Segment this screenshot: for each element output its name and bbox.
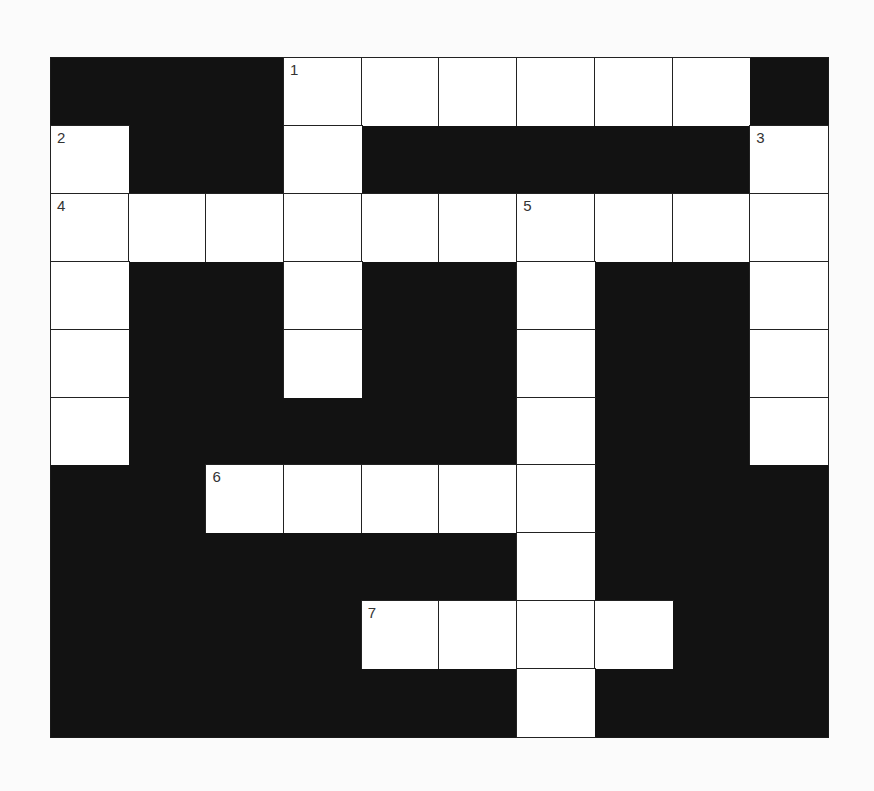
black-square [750,58,828,126]
black-square [129,330,207,398]
crossword-cell[interactable] [517,533,595,601]
black-square [284,601,362,669]
black-square [439,533,517,601]
crossword-cell[interactable] [517,330,595,398]
black-square [750,465,828,533]
black-square [362,669,440,737]
black-square [673,669,751,737]
crossword-cell[interactable]: 5 [517,194,595,262]
crossword-cell[interactable] [673,194,751,262]
crossword-cell[interactable] [362,194,440,262]
black-square [284,533,362,601]
black-square [284,398,362,466]
black-square [129,533,207,601]
crossword-cell[interactable] [750,330,828,398]
black-square [750,601,828,669]
black-square [673,398,751,466]
crossword-cell[interactable] [517,398,595,466]
crossword-cell[interactable]: 3 [750,126,828,194]
black-square [129,126,207,194]
black-square [51,669,129,737]
crossword-cell[interactable] [439,601,517,669]
black-square [673,262,751,330]
crossword-cell[interactable] [284,330,362,398]
crossword-cell[interactable] [439,194,517,262]
crossword-cell[interactable] [51,262,129,330]
crossword-cell[interactable] [517,465,595,533]
black-square [206,601,284,669]
crossword-cell[interactable]: 1 [284,58,362,126]
black-square [595,669,673,737]
crossword-cell[interactable] [517,262,595,330]
black-square [595,533,673,601]
black-square [595,262,673,330]
crossword-cell[interactable] [750,398,828,466]
crossword-cell[interactable] [284,126,362,194]
black-square [439,669,517,737]
black-square [673,126,751,194]
black-square [673,330,751,398]
black-square [439,126,517,194]
black-square [750,533,828,601]
crossword-cell[interactable] [750,194,828,262]
black-square [206,330,284,398]
black-square [517,126,595,194]
clue-number: 2 [57,130,65,145]
black-square [595,398,673,466]
black-square [206,533,284,601]
crossword-cell[interactable] [673,58,751,126]
black-square [206,126,284,194]
crossword-cell[interactable] [284,465,362,533]
crossword-cell[interactable] [362,58,440,126]
crossword-cell[interactable] [362,465,440,533]
black-square [129,601,207,669]
black-square [362,533,440,601]
crossword-cell[interactable] [595,58,673,126]
crossword-cell[interactable] [517,58,595,126]
black-square [439,262,517,330]
crossword-cell[interactable] [284,262,362,330]
black-square [206,669,284,737]
black-square [362,330,440,398]
crossword-cell[interactable] [51,398,129,466]
black-square [673,465,751,533]
crossword-cell[interactable]: 7 [362,601,440,669]
black-square [206,58,284,126]
black-square [206,262,284,330]
crossword-cell[interactable] [595,194,673,262]
black-square [129,262,207,330]
crossword-cell[interactable] [129,194,207,262]
crossword-cell[interactable] [439,58,517,126]
clue-number: 5 [523,198,531,213]
black-square [129,465,207,533]
crossword-cell[interactable] [750,262,828,330]
black-square [129,669,207,737]
crossword-cell[interactable] [517,669,595,737]
crossword-cell[interactable]: 2 [51,126,129,194]
black-square [284,669,362,737]
black-square [362,398,440,466]
black-square [673,601,751,669]
crossword-cell[interactable] [206,194,284,262]
clue-number: 1 [290,62,298,77]
crossword-cell[interactable]: 6 [206,465,284,533]
crossword-cell[interactable] [284,194,362,262]
clue-number: 7 [368,605,376,620]
crossword-cell[interactable] [517,601,595,669]
clue-number: 6 [212,469,220,484]
black-square [129,58,207,126]
black-square [362,262,440,330]
black-square [750,669,828,737]
crossword-cell[interactable] [439,465,517,533]
black-square [439,330,517,398]
black-square [595,330,673,398]
crossword-cell[interactable]: 4 [51,194,129,262]
black-square [206,398,284,466]
crossword-cell[interactable] [595,601,673,669]
black-square [51,601,129,669]
crossword-grid: 1234567 [50,57,829,738]
black-square [595,126,673,194]
black-square [673,533,751,601]
crossword-cell[interactable] [51,330,129,398]
black-square [129,398,207,466]
